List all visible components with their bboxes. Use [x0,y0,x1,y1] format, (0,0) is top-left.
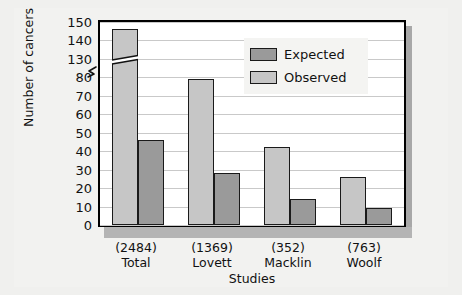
gridline [100,225,404,226]
legend-swatch-observed [250,71,277,84]
y-axis-tick-label: 70 [75,88,92,103]
y-axis-tick-label: 10 [75,199,92,214]
gridline [100,114,404,115]
y-axis-title: Number of cancers [21,0,36,148]
x-axis-tick-count: (763) [319,240,409,255]
bar-observed-woolf [340,177,366,225]
y-axis-tick-label: 50 [75,125,92,140]
bar-expected-lovett [214,173,240,225]
bar-expected-total [138,140,164,225]
y-axis-ticks: 01020304050607080130140150 [40,20,96,227]
bar-observed-lovett [188,79,214,225]
legend-item-observed: Observed [250,66,362,89]
baseline-band [104,227,412,238]
x-axis-tick-label: Woolf [319,255,409,270]
legend-swatch-expected [250,48,277,61]
bar-observed-total [112,29,138,225]
y-axis-tick-label: 150 [67,15,92,30]
legend-label-observed: Observed [284,70,347,85]
y-axis-tick-label: 140 [67,33,92,48]
y-axis-tick-label: 20 [75,181,92,196]
chart-legend: Expected Observed [244,38,368,94]
figure: Number of cancers 0102030405060708013014… [0,0,462,295]
x-axis-ticks: (2484)Total(1369)Lovett(352)Macklin(763)… [98,240,406,274]
y-axis-tick-label: 30 [75,162,92,177]
legend-item-expected: Expected [250,43,362,66]
x-axis-title: Studies [98,271,406,286]
bar-expected-macklin [290,199,316,225]
bar-observed-macklin [264,147,290,225]
y-axis-tick-label: 60 [75,107,92,122]
gridline [100,22,404,23]
y-axis-tick-label: 40 [75,144,92,159]
bar-expected-woolf [366,208,392,225]
y-axis-tick-label: 0 [84,218,92,233]
gridline [100,133,404,134]
gridline [100,96,404,97]
legend-label-expected: Expected [284,47,345,62]
x-axis-group-woolf: (763)Woolf [319,240,409,270]
